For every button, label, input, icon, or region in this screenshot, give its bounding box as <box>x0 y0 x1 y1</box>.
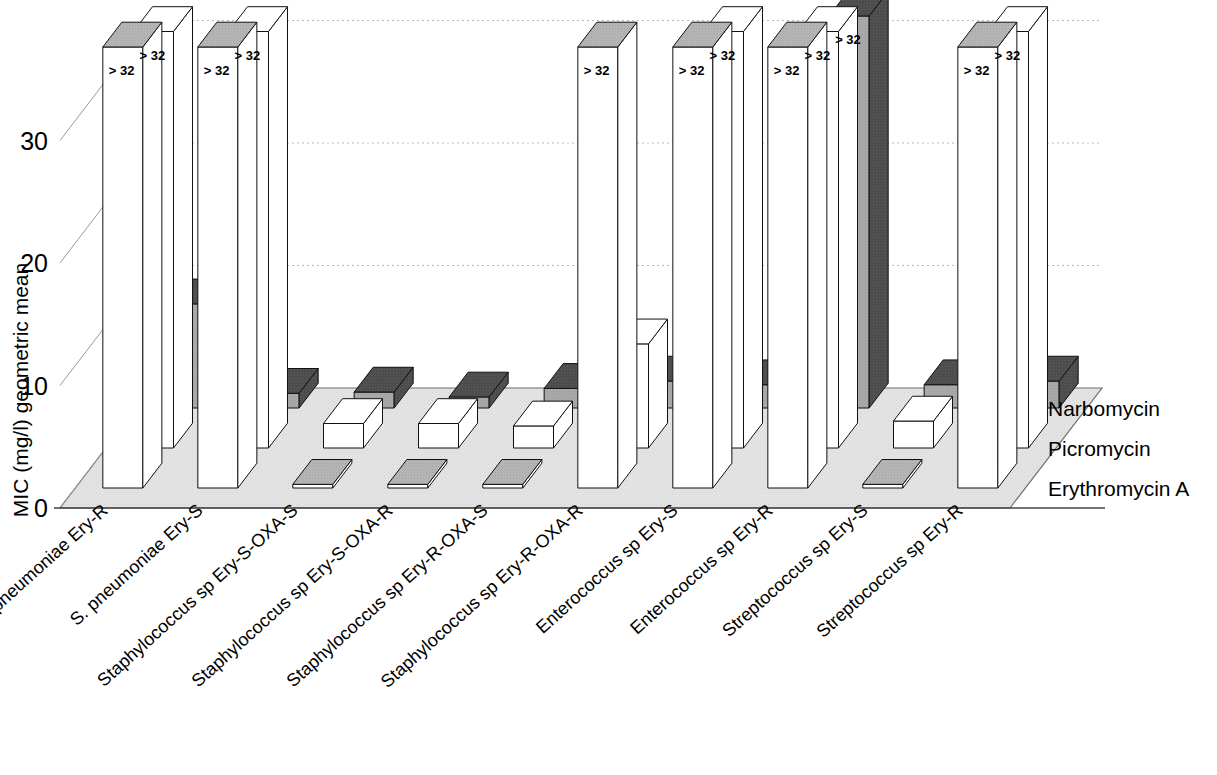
bar-value-label: > 32 <box>995 48 1021 63</box>
bar-3d[interactable] <box>673 22 732 488</box>
bar-value-label: > 32 <box>964 63 990 78</box>
legend-label-erythromycin-a[interactable]: Erythromycin A <box>1048 477 1189 500</box>
legend-label-narbomycin[interactable]: Narbomycin <box>1048 397 1160 420</box>
bar-3d[interactable] <box>768 22 827 488</box>
bar-value-label: > 32 <box>774 63 800 78</box>
bar-3d[interactable] <box>198 22 257 488</box>
x-axis-category-label: Staphylococcus sp Ery-R-OXA-S <box>283 500 492 691</box>
bar-value-label: > 32 <box>235 48 261 63</box>
bar-value-label: > 32 <box>805 48 831 63</box>
bar-value-label: > 32 <box>109 63 135 78</box>
bar-value-label: > 32 <box>204 63 230 78</box>
legend-label-picromycin[interactable]: Picromycin <box>1048 437 1151 460</box>
bar-value-label: > 32 <box>584 63 610 78</box>
y-axis-tick-label: 20 <box>20 249 48 277</box>
x-axis-category-label: Staphylococcus sp Ery-S-OXA-S <box>93 500 301 690</box>
y-axis-tick-label: 30 <box>20 127 48 155</box>
bar-3d[interactable] <box>103 22 162 488</box>
bar-chart-3d: MIC (mg/l) geometric mean 0102030 Erythr… <box>0 0 1217 775</box>
bar-value-label: > 32 <box>679 63 705 78</box>
x-axis-category-label: Staphylococcus sp Ery-R-OXA-R <box>377 500 587 692</box>
bar-value-label: > 32 <box>140 48 166 63</box>
bar-3d[interactable] <box>958 22 1017 488</box>
y-axis-tick-label: 0 <box>34 494 48 522</box>
y-axis-tick-label: 10 <box>20 372 48 400</box>
x-axis-category-label: Staphylococcus sp Ery-S-OXA-R <box>188 500 397 691</box>
bar-value-label: > 32 <box>835 32 861 47</box>
bar-3d[interactable] <box>578 22 637 488</box>
bar-value-label: > 32 <box>710 48 736 63</box>
chart-container: MIC (mg/l) geometric mean 0102030 Erythr… <box>0 0 1217 775</box>
